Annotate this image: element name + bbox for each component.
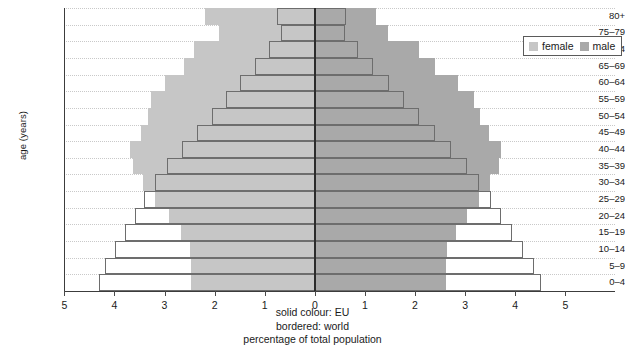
caption-line-units: percentage of total population (0, 333, 625, 347)
x-axis-tick-mark (465, 291, 466, 296)
world-male-bar (315, 108, 419, 125)
world-female-bar (105, 258, 314, 275)
x-axis-tick-mark (64, 291, 65, 296)
caption-line-solid: solid colour: EU (0, 306, 625, 320)
world-female-bar (226, 91, 315, 108)
x-axis-tick-mark (565, 291, 566, 296)
population-pyramid-chart: age (years) 80+75–7970–7465–6960–6455–59… (0, 0, 625, 348)
world-male-bar (315, 274, 541, 291)
pyramid-row (64, 158, 615, 175)
legend: female male (523, 36, 622, 56)
world-male-bar (315, 191, 491, 208)
world-female-bar (167, 158, 315, 175)
pyramid-row (64, 8, 615, 25)
x-axis-tick-mark (315, 291, 316, 296)
world-male-bar (315, 41, 358, 58)
world-male-bar (315, 25, 345, 42)
world-female-bar (212, 108, 315, 125)
bottom-axis-line (64, 291, 615, 292)
world-female-bar (197, 125, 315, 142)
female-swatch-icon (529, 42, 538, 51)
pyramid-row (64, 208, 615, 225)
pyramid-row (64, 224, 615, 241)
world-male-bar (315, 91, 404, 108)
x-axis-tick-mark (265, 291, 266, 296)
pyramid-row (64, 141, 615, 158)
world-male-bar (315, 174, 479, 191)
world-female-bar (240, 75, 315, 92)
world-female-bar (182, 141, 315, 158)
world-female-bar (281, 25, 315, 42)
x-axis-tick-mark (365, 291, 366, 296)
pyramid-row (64, 91, 615, 108)
x-axis-tick-mark (114, 291, 115, 296)
world-male-bar (315, 241, 523, 258)
world-male-bar (315, 158, 467, 175)
world-female-bar (125, 224, 314, 241)
world-male-bar (315, 258, 534, 275)
x-axis-tick-mark (165, 291, 166, 296)
male-swatch-icon (580, 42, 589, 51)
pyramid-row (64, 58, 615, 75)
legend-label-male: male (593, 40, 616, 52)
world-male-bar (315, 125, 435, 142)
world-female-bar (255, 58, 315, 75)
world-male-bar (315, 141, 451, 158)
pyramid-row (64, 125, 615, 142)
world-male-bar (315, 208, 501, 225)
center-axis-line (314, 8, 315, 291)
chart-caption: solid colour: EU bordered: world percent… (0, 306, 625, 347)
world-female-bar (99, 274, 314, 291)
pyramid-row (64, 108, 615, 125)
pyramid-row (64, 258, 615, 275)
x-axis-tick-mark (215, 291, 216, 296)
x-axis-tick-mark (415, 291, 416, 296)
left-axis-line (64, 8, 65, 291)
caption-line-bordered: bordered: world (0, 320, 625, 334)
world-male-bar (315, 58, 373, 75)
x-axis-tick-mark (515, 291, 516, 296)
legend-label-female: female (542, 40, 574, 52)
pyramid-row (64, 274, 615, 291)
world-female-bar (135, 208, 314, 225)
world-female-bar (115, 241, 314, 258)
world-male-bar (315, 75, 389, 92)
world-female-bar (269, 41, 315, 58)
pyramid-row (64, 75, 615, 92)
world-female-bar (155, 174, 314, 191)
legend-item-male: male (580, 40, 616, 52)
y-axis-title: age (years) (17, 91, 28, 181)
pyramid-row (64, 191, 615, 208)
legend-item-female: female (529, 40, 574, 52)
world-female-bar (144, 191, 314, 208)
pyramid-row (64, 241, 615, 258)
pyramid-row (64, 174, 615, 191)
world-female-bar (277, 8, 315, 25)
world-male-bar (315, 8, 346, 25)
world-male-bar (315, 224, 512, 241)
